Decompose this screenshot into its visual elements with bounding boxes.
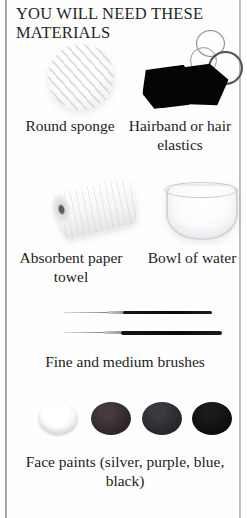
hairband-icon xyxy=(136,28,247,114)
paint-pot-icon-silver xyxy=(38,402,78,435)
bowl-of-water-icon xyxy=(162,182,238,240)
materials-page: YOU WILL NEED THESE MATERIALS Round spon… xyxy=(0,0,247,518)
paint-pot-lid xyxy=(142,402,182,435)
paint-brush-icon-fine xyxy=(64,310,212,315)
paint-pot-lid xyxy=(192,402,232,435)
bowl-rim xyxy=(164,182,238,198)
brush-handle xyxy=(121,331,222,335)
brush-bristle-tip xyxy=(64,312,114,314)
paint-brush-icon-medium xyxy=(64,330,222,335)
round-sponge-icon xyxy=(48,44,114,110)
brush-bristle-tip xyxy=(64,332,108,334)
caption-paper-towel: Absorbent paper towel xyxy=(12,248,130,286)
paint-pot-icon-blue xyxy=(142,402,182,435)
paint-pot-icon-purple xyxy=(91,402,131,435)
left-column-rule xyxy=(5,0,7,518)
caption-round-sponge: Round sponge xyxy=(18,116,122,135)
brush-handle xyxy=(123,311,212,314)
paint-pot-row xyxy=(26,400,232,442)
page-content: YOU WILL NEED THESE MATERIALS Round spon… xyxy=(12,0,236,518)
paint-pot-lid xyxy=(38,402,78,435)
caption-bowl-of-water: Bowl of water xyxy=(140,248,244,267)
paint-pot-icon-black xyxy=(192,402,232,435)
caption-hairband: Hairband or hair elastics xyxy=(122,116,238,154)
paper-towel-roll-icon xyxy=(50,180,142,242)
paint-pot-lid xyxy=(91,402,131,435)
caption-face-paints: Face paints (silver, purple, blue, black… xyxy=(20,452,230,490)
caption-brushes: Fine and medium brushes xyxy=(22,352,228,371)
